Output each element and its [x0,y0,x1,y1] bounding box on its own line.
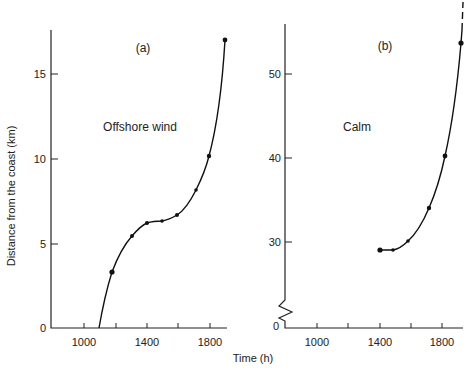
b-ytick-50: 50 [269,68,281,80]
b-xtick-1400: 1400 [368,336,392,348]
a-ytick-5: 5 [40,238,46,250]
panel-b-annotation: Calm [343,120,371,134]
panel-b: 50 40 30 0 1000 1400 1800 (b) Calm [269,2,464,348]
offshore-wind-curve [99,40,225,328]
y-axis-label: Distance from the coast (km) [5,126,17,267]
offshore-wind-points [109,38,227,275]
chart: Distance from the coast (km) 15 10 5 0 1… [0,0,476,376]
b-ytick-30: 30 [269,236,281,248]
a-xtick-1400: 1400 [135,336,159,348]
panel-b-axes [279,24,463,328]
b-xtick-1000: 1000 [305,336,329,348]
b-ytick-0: 0 [273,320,279,332]
a-ytick-10: 10 [34,153,46,165]
panel-b-label: (b) [378,39,393,53]
panel-a-label: (a) [136,41,151,55]
a-ytick-15: 15 [34,68,46,80]
x-axis-label: Time (h) [233,352,274,364]
calm-curve [380,30,462,250]
b-xtick-1800: 1800 [430,336,454,348]
calm-points [377,40,463,252]
panel-a-annotation: Offshore wind [103,120,177,134]
a-xtick-1000: 1000 [72,336,96,348]
a-ytick-0: 0 [40,322,46,334]
calm-curve-extension [462,2,463,30]
panel-a: 15 10 5 0 1000 1400 1800 (a) Offshore wi… [34,30,228,348]
b-ytick-40: 40 [269,152,281,164]
a-xtick-1800: 1800 [198,336,222,348]
